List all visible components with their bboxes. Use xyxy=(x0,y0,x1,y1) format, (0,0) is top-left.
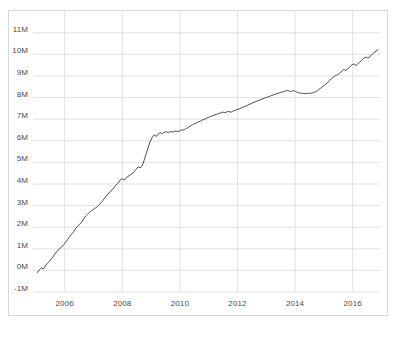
figure-caption xyxy=(0,330,398,337)
y-axis-tick-label: 3M xyxy=(0,198,28,207)
chart-plot-area xyxy=(0,0,398,337)
y-axis-tick-label: 9M xyxy=(0,68,28,77)
y-axis-tick-label: 0M xyxy=(0,262,28,271)
y-axis-tick-label: 8M xyxy=(0,90,28,99)
x-axis-tick-label: 2006 xyxy=(45,299,85,308)
x-axis-tick-label: 2016 xyxy=(333,299,373,308)
y-axis-tick-label: 11M xyxy=(0,25,28,34)
y-axis-tick-label: 10M xyxy=(0,46,28,55)
y-axis-tick-label: 6M xyxy=(0,133,28,142)
x-axis-tick-label: 2008 xyxy=(102,299,142,308)
y-axis-tick-label: 1M xyxy=(0,241,28,250)
x-axis-tick-label: 2014 xyxy=(275,299,315,308)
y-axis-tick-label: 4M xyxy=(0,176,28,185)
grid-lines xyxy=(33,10,380,292)
y-axis-tick-label: 2M xyxy=(0,219,28,228)
x-axis-tick-label: 2012 xyxy=(217,299,257,308)
data-series-group xyxy=(37,49,378,272)
chart-figure: 11M10M9M8M7M6M5M4M3M2M1M0M-1M 2006200820… xyxy=(0,0,398,337)
x-axis-tick-label: 2010 xyxy=(160,299,200,308)
data-line xyxy=(37,49,378,272)
y-axis-tick-label: 7M xyxy=(0,111,28,120)
y-axis-tick-label: 5M xyxy=(0,154,28,163)
y-axis-tick-label: -1M xyxy=(0,284,28,293)
